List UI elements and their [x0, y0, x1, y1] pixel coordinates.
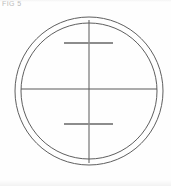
- figure-page: FIG 5: [0, 0, 171, 186]
- reticle-crosshair-diagram: [0, 0, 171, 186]
